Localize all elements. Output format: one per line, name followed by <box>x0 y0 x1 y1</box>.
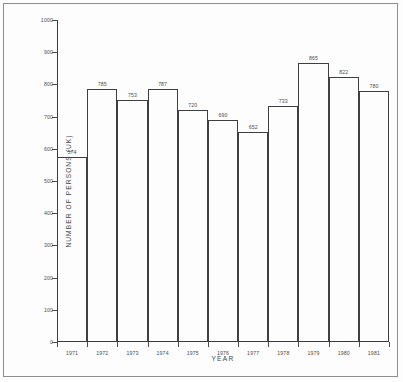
bar-value-label: 652 <box>249 124 258 130</box>
y-tick-label: 200 <box>44 275 53 281</box>
bar: 787 <box>148 89 178 342</box>
bar-value-label: 787 <box>158 81 167 87</box>
bar: 733 <box>268 106 298 342</box>
x-tick-label: 1973 <box>126 350 138 356</box>
x-tick-mark <box>359 342 360 347</box>
x-tick-label: 1975 <box>187 350 199 356</box>
y-tick-label: 800 <box>44 81 53 87</box>
x-tick-mark <box>148 342 149 347</box>
bar: 690 <box>208 120 238 342</box>
bar: 720 <box>178 110 208 342</box>
bar-chart-figure: NUMBER OF PERSONS (UK) YEAR 010020030040… <box>0 0 403 382</box>
x-tick-label: 1974 <box>157 350 169 356</box>
bar-value-label: 733 <box>279 98 288 104</box>
bar-value-label: 865 <box>309 55 318 61</box>
x-tick-mark <box>117 342 118 347</box>
x-tick-mark <box>298 342 299 347</box>
x-tick-label: 1981 <box>368 350 380 356</box>
x-tick-label: 1971 <box>66 350 78 356</box>
bar: 865 <box>298 63 328 342</box>
bar: 753 <box>117 100 147 342</box>
x-tick-label: 1972 <box>96 350 108 356</box>
plot-area: 01002003004005006007008009001000 1971197… <box>57 20 389 342</box>
x-tick-label: 1976 <box>217 350 229 356</box>
bar: 822 <box>329 77 359 342</box>
y-tick-label: 600 <box>44 146 53 152</box>
bar-value-label: 574 <box>68 149 77 155</box>
x-tick-label: 1979 <box>307 350 319 356</box>
bar-value-label: 785 <box>98 81 107 87</box>
y-tick-label: 300 <box>44 242 53 248</box>
bar-value-label: 822 <box>339 69 348 75</box>
y-tick-label: 100 <box>44 307 53 313</box>
x-tick-mark <box>87 342 88 347</box>
x-tick-mark <box>389 342 390 347</box>
x-axis-title: YEAR <box>57 355 389 362</box>
y-tick-label: 500 <box>44 178 53 184</box>
bar-value-label: 780 <box>369 83 378 89</box>
bar-value-label: 690 <box>219 112 228 118</box>
x-tick-label: 1978 <box>277 350 289 356</box>
x-tick-label: 1980 <box>338 350 350 356</box>
x-tick-mark <box>57 342 58 347</box>
y-tick-label: 900 <box>44 49 53 55</box>
x-tick-label: 1977 <box>247 350 259 356</box>
bar: 780 <box>359 91 389 342</box>
x-tick-mark <box>208 342 209 347</box>
bar: 785 <box>87 89 117 342</box>
y-tick-label: 0 <box>50 339 53 345</box>
x-tick-mark <box>238 342 239 347</box>
y-tick-label: 700 <box>44 114 53 120</box>
y-tick-label: 1000 <box>41 17 53 23</box>
bar: 574 <box>57 157 87 342</box>
y-tick-label: 400 <box>44 210 53 216</box>
x-tick-mark <box>268 342 269 347</box>
x-tick-mark <box>178 342 179 347</box>
bar-value-label: 753 <box>128 92 137 98</box>
x-tick-mark <box>329 342 330 347</box>
bar-value-label: 720 <box>188 102 197 108</box>
bar: 652 <box>238 132 268 342</box>
